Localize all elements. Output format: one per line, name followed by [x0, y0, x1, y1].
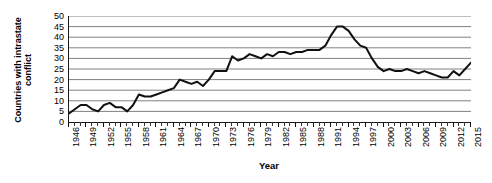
x-tick-mark-1995: [353, 122, 354, 126]
x-tick-mark-1972: [219, 122, 220, 126]
x-axis-tick-labels: 1946194919521955195819611964196719701973…: [68, 127, 470, 159]
x-tick-mark-1950: [91, 122, 92, 126]
x-tick-mark-1965: [179, 122, 180, 126]
y-axis-title: Countries with intrastate conflict: [0, 0, 46, 140]
y-tick-label-35: 35: [54, 43, 64, 52]
x-tick-mark-2005: [412, 122, 413, 126]
x-tick-mark-2015: [470, 122, 471, 127]
x-tick-mark-1959: [144, 122, 145, 126]
y-tick-label-5: 5: [59, 107, 64, 116]
x-tick-mark-1962: [161, 122, 162, 126]
x-tick-mark-1983: [284, 122, 285, 126]
x-tick-mark-2002: [394, 122, 395, 126]
y-tick-label-15: 15: [54, 86, 64, 95]
x-tick-label-1973: 1973: [229, 127, 238, 147]
y-axis-title-line-1: Countries with intrastate: [13, 17, 23, 123]
x-tick-label-1949: 1949: [89, 127, 98, 147]
x-tick-label-1964: 1964: [177, 127, 186, 147]
x-tick-mark-1975: [237, 122, 238, 126]
x-tick-label-1994: 1994: [352, 127, 361, 147]
x-tick-mark-1947: [74, 122, 75, 126]
x-tick-label-1997: 1997: [369, 127, 378, 147]
x-tick-mark-1971: [214, 122, 215, 126]
y-tick-label-40: 40: [54, 33, 64, 42]
x-tick-label-2012: 2012: [457, 127, 466, 147]
x-tick-label-1970: 1970: [212, 127, 221, 147]
x-tick-mark-1968: [196, 122, 197, 126]
x-tick-mark-1993: [342, 122, 343, 126]
y-tick-label-30: 30: [54, 54, 64, 63]
x-tick-mark-1974: [231, 122, 232, 126]
x-tick-mark-1948: [80, 122, 81, 126]
x-tick-mark-1998: [371, 122, 372, 126]
x-tick-mark-1996: [359, 122, 360, 126]
x-tick-label-1967: 1967: [194, 127, 203, 147]
x-tick-mark-1953: [109, 122, 110, 126]
x-tick-label-1976: 1976: [247, 127, 256, 147]
y-tick-label-45: 45: [54, 22, 64, 31]
x-tick-mark-1980: [266, 122, 267, 126]
x-tick-label-1946: 1946: [72, 127, 81, 147]
y-gridlines: [69, 16, 471, 111]
x-tick-label-2003: 2003: [404, 127, 413, 147]
x-tick-label-1988: 1988: [317, 127, 326, 147]
x-tick-mark-1992: [336, 122, 337, 126]
x-tick-mark-1956: [126, 122, 127, 126]
x-tick-mark-1951: [97, 122, 98, 126]
x-tick-mark-2010: [441, 122, 442, 126]
x-tick-label-2009: 2009: [439, 127, 448, 147]
x-tick-mark-2011: [447, 122, 448, 126]
x-tick-label-1979: 1979: [264, 127, 273, 147]
y-tick-label-50: 50: [54, 12, 64, 21]
x-tick-mark-2014: [464, 122, 465, 126]
x-tick-mark-1957: [132, 122, 133, 126]
chart-canvas: [69, 16, 471, 122]
y-axis-title-line-2: conflict: [23, 17, 33, 123]
x-tick-mark-2007: [423, 122, 424, 126]
x-tick-mark-2004: [406, 122, 407, 126]
x-tick-label-1985: 1985: [299, 127, 308, 147]
x-tick-mark-1987: [307, 122, 308, 126]
x-axis-title: Year: [68, 160, 470, 171]
x-tick-mark-2013: [458, 122, 459, 126]
x-tick-mark-2001: [388, 122, 389, 126]
y-tick-label-10: 10: [54, 96, 64, 105]
x-tick-label-2006: 2006: [422, 127, 431, 147]
x-tick-mark-1989: [319, 122, 320, 126]
x-tick-mark-2008: [429, 122, 430, 126]
x-tick-mark-1966: [185, 122, 186, 126]
x-tick-mark-1984: [289, 122, 290, 126]
x-tick-label-1958: 1958: [142, 127, 151, 147]
x-tick-label-1982: 1982: [282, 127, 291, 147]
x-tick-label-1991: 1991: [334, 127, 343, 147]
y-tick-label-0: 0: [59, 118, 64, 127]
plot-area: [68, 16, 471, 123]
chart-figure: Countries with intrastate conflict 05101…: [0, 0, 492, 183]
x-tick-mark-1963: [167, 122, 168, 126]
x-tick-label-2000: 2000: [387, 127, 396, 147]
y-axis-tick-labels: 05101520253035404550: [46, 12, 66, 126]
x-tick-label-1952: 1952: [107, 127, 116, 147]
x-tick-mark-1981: [272, 122, 273, 126]
x-tick-mark-1978: [254, 122, 255, 126]
x-tick-label-1961: 1961: [159, 127, 168, 147]
x-tick-label-1955: 1955: [124, 127, 133, 147]
x-tick-mark-1999: [377, 122, 378, 126]
x-tick-mark-1990: [324, 122, 325, 126]
x-tick-mark-1954: [115, 122, 116, 126]
x-tick-mark-1977: [249, 122, 250, 126]
x-tick-mark-1960: [150, 122, 151, 126]
y-tick-label-20: 20: [54, 75, 64, 84]
x-tick-label-2015: 2015: [474, 127, 483, 147]
x-tick-mark-1969: [202, 122, 203, 126]
x-tick-mark-1986: [301, 122, 302, 126]
y-tick-label-25: 25: [54, 65, 64, 74]
